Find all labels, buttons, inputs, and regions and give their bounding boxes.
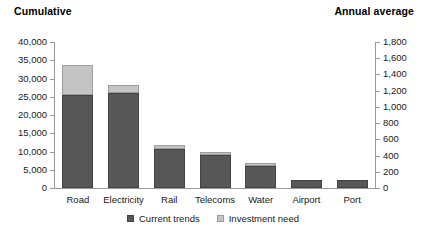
chart-legend: Current trendsInvestment need	[0, 213, 426, 224]
legend-label: Investment need	[229, 213, 299, 224]
bar-segment[interactable]	[154, 149, 185, 188]
left-tick-mark	[50, 133, 54, 134]
right-tick-mark	[376, 172, 380, 173]
bar-segment[interactable]	[108, 93, 139, 188]
right-tick-mark	[376, 107, 380, 108]
left-axis-title: Cumulative	[14, 5, 72, 17]
right-tick-label: 400	[383, 151, 399, 161]
right-tick-mark	[376, 123, 380, 124]
bar-group[interactable]	[108, 42, 139, 188]
right-tick-mark	[376, 156, 380, 157]
bar-group[interactable]	[245, 42, 276, 188]
bar-segment[interactable]	[154, 145, 185, 149]
right-tick-mark	[376, 91, 380, 92]
bar-group[interactable]	[62, 42, 93, 188]
bar-segment[interactable]	[245, 163, 276, 166]
left-tick-mark	[50, 79, 54, 80]
left-tick-mark	[50, 115, 54, 116]
left-tick-label: 0	[42, 183, 47, 193]
left-tick-label: 15,000	[18, 128, 47, 138]
legend-swatch-icon	[217, 215, 224, 222]
right-tick-label: 1,400	[383, 69, 407, 79]
left-tick-mark	[50, 170, 54, 171]
bar-group[interactable]	[337, 42, 368, 188]
bar-segment[interactable]	[245, 166, 276, 188]
bar-group[interactable]	[154, 42, 185, 188]
right-tick-mark	[376, 139, 380, 140]
legend-item[interactable]: Current trends	[127, 213, 200, 224]
right-tick-mark	[376, 188, 380, 189]
left-tick-mark	[50, 152, 54, 153]
right-tick-mark	[376, 74, 380, 75]
category-label-road: Road	[55, 194, 101, 205]
left-tick-label: 10,000	[18, 147, 47, 157]
left-tick-mark	[50, 97, 54, 98]
bar-segment[interactable]	[200, 152, 231, 155]
left-tick-label: 5,000	[23, 165, 47, 175]
bar-segment[interactable]	[108, 85, 139, 93]
right-tick-mark	[376, 58, 380, 59]
right-tick-mark	[376, 42, 380, 43]
category-label-airport: Airport	[284, 194, 330, 205]
plot-area: 05,00010,00015,00020,00025,00030,00035,0…	[55, 42, 375, 188]
category-label-rail: Rail	[146, 194, 192, 205]
left-tick-label: 40,000	[18, 37, 47, 47]
right-tick-label: 800	[383, 118, 399, 128]
right-axis-spine	[375, 42, 376, 188]
right-tick-label: 0	[383, 183, 388, 193]
category-label-port: Port	[329, 194, 375, 205]
left-tick-mark	[50, 188, 54, 189]
right-tick-label: 1,200	[383, 86, 407, 96]
bar-group[interactable]	[291, 42, 322, 188]
bar-segment[interactable]	[62, 95, 93, 188]
left-tick-label: 30,000	[18, 74, 47, 84]
category-label-telecoms: Telecoms	[192, 194, 238, 205]
left-tick-mark	[50, 60, 54, 61]
category-label-water: Water	[238, 194, 284, 205]
right-tick-label: 1,600	[383, 53, 407, 63]
bar-segment[interactable]	[337, 180, 368, 188]
left-tick-label: 25,000	[18, 92, 47, 102]
right-tick-label: 200	[383, 167, 399, 177]
right-tick-label: 1,000	[383, 102, 407, 112]
right-axis-title: Annual average	[334, 5, 414, 17]
chart-container: Cumulative Annual average 05,00010,00015…	[0, 0, 426, 236]
x-axis-baseline	[54, 188, 376, 189]
bar-segment[interactable]	[62, 65, 93, 95]
left-tick-mark	[50, 42, 54, 43]
left-tick-label: 35,000	[18, 55, 47, 65]
bar-group[interactable]	[200, 42, 231, 188]
legend-item[interactable]: Investment need	[217, 213, 299, 224]
category-label-electricity: Electricity	[101, 194, 147, 205]
bar-segment[interactable]	[291, 180, 322, 188]
bar-series-group	[55, 42, 375, 188]
right-tick-label: 600	[383, 134, 399, 144]
legend-swatch-icon	[127, 215, 134, 222]
bar-segment[interactable]	[200, 155, 231, 188]
legend-label: Current trends	[139, 213, 200, 224]
right-tick-label: 1,800	[383, 37, 407, 47]
left-tick-label: 20,000	[18, 110, 47, 120]
